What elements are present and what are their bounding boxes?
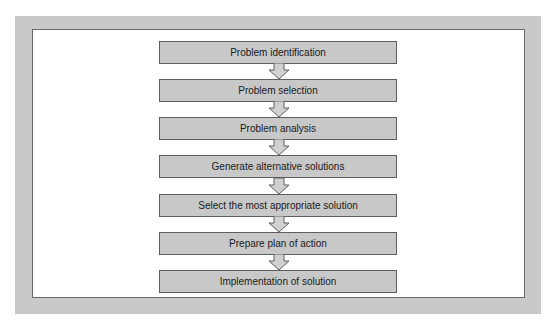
step-problem-identification: Problem identification: [159, 41, 397, 64]
down-arrow-icon: [268, 178, 290, 194]
down-arrow-icon: [268, 101, 290, 117]
step-prepare-plan: Prepare plan of action: [159, 232, 397, 255]
step-label: Implementation of solution: [220, 276, 337, 287]
down-arrow-icon: [268, 63, 290, 79]
step-problem-selection: Problem selection: [159, 79, 397, 102]
step-problem-analysis: Problem analysis: [159, 117, 397, 140]
step-label: Select the most appropriate solution: [198, 200, 358, 211]
down-arrow-icon: [268, 216, 290, 232]
step-label: Prepare plan of action: [229, 238, 327, 249]
step-label: Problem identification: [230, 47, 326, 58]
down-arrow-icon: [268, 254, 290, 270]
step-select-solution: Select the most appropriate solution: [159, 194, 397, 217]
step-generate-alternatives: Generate alternative solutions: [159, 155, 397, 178]
step-label: Generate alternative solutions: [212, 161, 345, 172]
step-label: Problem selection: [238, 85, 317, 96]
down-arrow-icon: [268, 139, 290, 155]
step-implementation: Implementation of solution: [159, 270, 397, 293]
step-label: Problem analysis: [240, 123, 316, 134]
